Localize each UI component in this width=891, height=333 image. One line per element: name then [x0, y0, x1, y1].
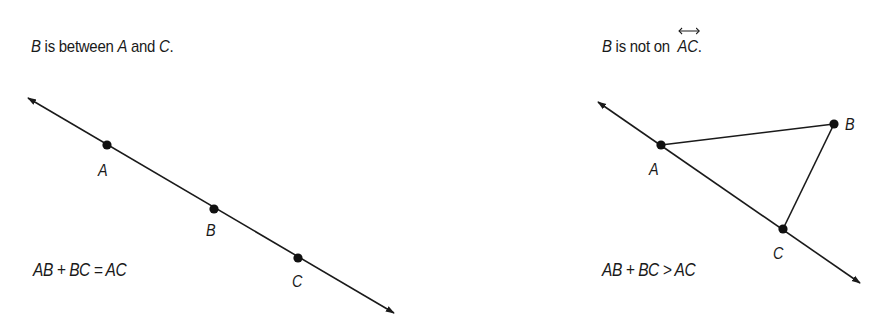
caption-var-c: C: [159, 37, 170, 56]
double-arrow-icon: [678, 26, 701, 36]
segment-bc: [783, 124, 834, 229]
caption-var-b: B: [31, 37, 41, 56]
noncollinear-caption: B is not on AC.: [602, 37, 702, 57]
line-ac: [598, 102, 860, 283]
line-ac-notation: AC: [678, 37, 698, 57]
caption-text: is not on: [612, 37, 674, 56]
caption-var-ac: AC: [678, 37, 698, 56]
segment-ab: [661, 124, 834, 145]
caption-var-b: B: [602, 37, 612, 56]
point-c-label: C: [773, 244, 783, 264]
point-a-dot: [102, 140, 111, 149]
collinear-caption: B is between A and C.: [31, 37, 174, 57]
collinear-panel: B is between A and C. A B C AB + BC = AC: [0, 0, 445, 333]
point-b-label: B: [845, 115, 855, 135]
caption-text: is between: [41, 37, 118, 56]
inequality-equation: AB + BC > AC: [602, 260, 695, 281]
noncollinear-panel: B is not on AC. A B C AB + BC > AC: [445, 0, 891, 333]
caption-var-a: A: [117, 37, 127, 56]
caption-period: .: [698, 37, 702, 56]
equality-equation: AB + BC = AC: [33, 260, 126, 281]
point-a-label: A: [98, 161, 108, 181]
point-c-dot: [293, 253, 302, 262]
caption-period: .: [170, 37, 174, 56]
caption-text: and: [127, 37, 159, 56]
point-c-dot: [778, 224, 787, 233]
point-a-dot: [656, 140, 665, 149]
point-c-label: C: [292, 272, 302, 292]
point-b-dot: [829, 119, 838, 128]
point-a-label: A: [649, 160, 659, 180]
point-b-dot: [209, 204, 218, 213]
point-b-label: B: [206, 221, 216, 241]
